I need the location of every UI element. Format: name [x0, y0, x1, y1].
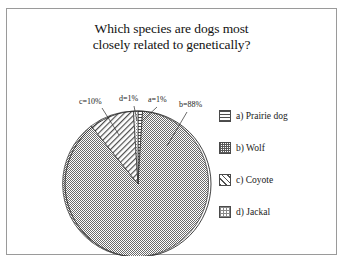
legend-swatch-jackal-icon — [219, 206, 231, 218]
legend-swatch-wolf-icon — [219, 142, 231, 154]
slice-callout-c: c=10% — [79, 97, 102, 106]
slice-callout-a: a=1% — [148, 95, 167, 104]
legend-item-jackal[interactable]: d) Jackal — [219, 205, 329, 218]
legend-label-coyote: c) Coyote — [236, 175, 273, 185]
slice-callout-b: b=88% — [179, 100, 202, 109]
legend-label-prairie-dog: a) Prairie dog — [236, 111, 288, 121]
slice-callout-d: d=1% — [119, 94, 138, 103]
legend-item-prairie-dog[interactable]: a) Prairie dog — [219, 109, 329, 122]
legend-label-wolf: b) Wolf — [236, 143, 265, 153]
slide-frame: Which species are dogs most closely rela… — [6, 8, 337, 255]
legend-item-wolf[interactable]: b) Wolf — [219, 141, 329, 154]
legend-swatch-prairie-dog-icon — [219, 110, 231, 122]
legend: a) Prairie dog b) Wolf c) Coyote d) Jack… — [219, 109, 329, 237]
legend-swatch-coyote-icon — [219, 174, 231, 186]
legend-item-coyote[interactable]: c) Coyote — [219, 173, 329, 186]
legend-label-jackal: d) Jackal — [236, 207, 270, 217]
